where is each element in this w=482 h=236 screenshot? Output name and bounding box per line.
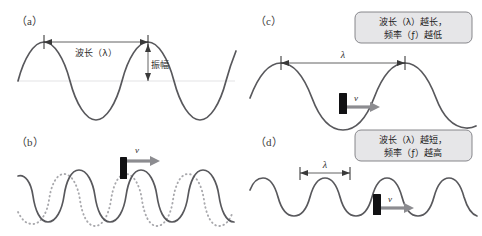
panel-c-label: （c） xyxy=(255,15,282,27)
panel-c-callout-line1: 波长（λ）越长， xyxy=(379,16,447,27)
panel-d-callout-line1: 波长（λ）越短， xyxy=(379,134,447,145)
panel-c-source-block xyxy=(339,93,347,114)
panel-b-source-block xyxy=(120,157,127,179)
panel-c-wavelength-symbol: λ xyxy=(340,49,346,60)
panel-c-callout-line2: 频率（ƒ）越低 xyxy=(384,29,441,40)
panel-d-callout-line2: 频率（ƒ）越高 xyxy=(384,147,441,158)
panel-b-velocity-label: v xyxy=(135,145,139,155)
wave-diagram-figure: （a） 波长（λ） 振幅 （b） v （c） xyxy=(0,0,482,236)
panel-a-amplitude-label: 振幅 xyxy=(151,59,169,70)
panel-a-wavelength-label: 波长（λ） xyxy=(75,47,116,58)
panel-b-label: （b） xyxy=(16,136,44,148)
panel-d-label: （d） xyxy=(255,136,283,148)
panel-c-velocity-label: v xyxy=(354,93,358,103)
panel-a-label: （a） xyxy=(16,15,43,27)
panel-d-velocity-label: v xyxy=(388,194,392,204)
panel-d-source-block xyxy=(373,194,381,215)
panel-d-wavelength-symbol: λ xyxy=(322,159,328,170)
